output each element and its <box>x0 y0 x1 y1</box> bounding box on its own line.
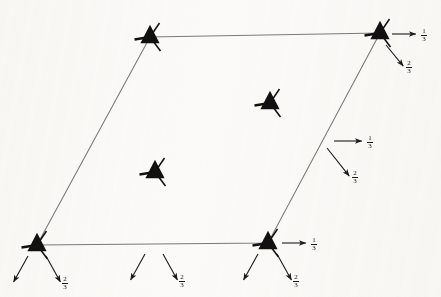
threefold-axis-interior-lower <box>140 158 166 186</box>
fraction-label-bottom-right-horizontal: 1 3 <box>308 237 320 251</box>
figure-canvas: 1 3 2 3 1 3 2 3 1 3 2 3 2 3 2 3 <box>0 0 441 297</box>
fraction-label-top-right-horizontal: 1 3 <box>418 28 430 42</box>
arrow-group-bottom-left-node <box>14 256 61 282</box>
screw-arrow-down-left <box>14 256 28 282</box>
unit-cell-parallelogram <box>37 33 380 245</box>
threefold-axis-interior-upper <box>255 89 281 117</box>
arrow-group-bottom-middle <box>131 254 178 280</box>
fraction-label-right-middle-diagonal: 2 3 <box>349 170 361 184</box>
screw-arrow-down-left <box>131 254 145 280</box>
fraction-label-top-right-diagonal: 2 3 <box>403 60 415 74</box>
fraction-label-bottom-left-diagonal: 2 3 <box>59 276 71 290</box>
fraction-label-bottom-middle-diagonal: 2 3 <box>176 274 188 288</box>
screw-arrow-down-left <box>244 254 258 280</box>
screw-arrow-diagonal <box>327 148 349 176</box>
screw-arrow-diagonal <box>386 45 403 66</box>
fraction-label-right-middle-horizontal: 1 3 <box>364 135 376 149</box>
fraction-label-bottom-right-diagonal: 2 3 <box>290 274 302 288</box>
